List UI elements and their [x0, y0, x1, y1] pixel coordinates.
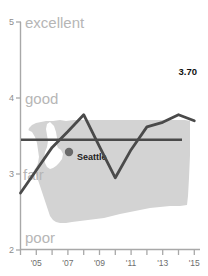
x-axis-ticks [21, 250, 195, 255]
y-tick-label-2: 2 [9, 245, 14, 255]
x-tick-label-2009: '09 [94, 258, 105, 268]
x-tick-label-2015: '15 [189, 258, 200, 268]
line-chart: Seattle 5 4 3 2 excellent good fair poor [0, 0, 208, 276]
washington-state-map: Seattle [26, 120, 190, 223]
scale-label-poor: poor [25, 229, 55, 246]
end-value-label: 3.70 [179, 66, 198, 77]
x-tick-label-2007: '07 [62, 258, 73, 268]
y-tick-label-5: 5 [9, 17, 14, 27]
x-tick-label-2013: '13 [157, 258, 168, 268]
x-tick-label-2005: '05 [31, 258, 42, 268]
y-tick-label-4: 4 [9, 93, 14, 103]
scale-label-excellent: excellent [25, 14, 85, 31]
scale-label-good: good [25, 90, 58, 107]
seattle-marker-dot [65, 148, 73, 156]
x-tick-label-2011: '11 [126, 258, 137, 268]
y-tick-label-3: 3 [9, 169, 14, 179]
chart-container: Seattle 5 4 3 2 excellent good fair poor [0, 0, 208, 276]
